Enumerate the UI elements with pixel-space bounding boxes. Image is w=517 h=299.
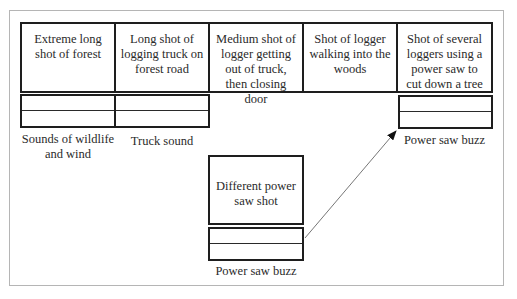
shot-box-3: Medium shot of logger getting out of tru… xyxy=(208,22,304,93)
audio-track-1 xyxy=(20,94,116,128)
audio-track-divider xyxy=(400,111,491,112)
audio-label-5: Power saw buzz xyxy=(396,133,493,148)
audio-track-divider xyxy=(22,110,114,111)
audio-track-5 xyxy=(398,95,493,129)
audio-track-divider xyxy=(210,243,302,244)
inserted-audio-track xyxy=(208,227,304,261)
shot-4-text: Shot of logger walking into the woods xyxy=(309,32,390,76)
audio-track-divider xyxy=(116,110,208,111)
shot-1-text: Extreme long shot of forest xyxy=(34,32,102,61)
audio-label-2: Truck sound xyxy=(114,134,210,149)
shot-box-2: Long shot of logging truck on forest roa… xyxy=(114,22,210,93)
audio-label-1: Sounds of wildlife and wind xyxy=(14,132,122,162)
audio-track-2 xyxy=(114,94,210,128)
shot-2-text: Long shot of logging truck on forest roa… xyxy=(121,32,204,76)
shot-box-1: Extreme long shot of forest xyxy=(20,22,116,93)
shot-5-text: Shot of several loggers using a power sa… xyxy=(406,32,483,91)
inserted-audio-label: Power saw buzz xyxy=(208,264,304,279)
inserted-shot-box: Different power saw shot xyxy=(208,155,304,225)
inserted-shot-text: Different power saw shot xyxy=(216,179,296,208)
shot-box-4: Shot of logger walking into the woods xyxy=(302,22,398,93)
shot-box-5: Shot of several loggers using a power sa… xyxy=(396,22,493,93)
